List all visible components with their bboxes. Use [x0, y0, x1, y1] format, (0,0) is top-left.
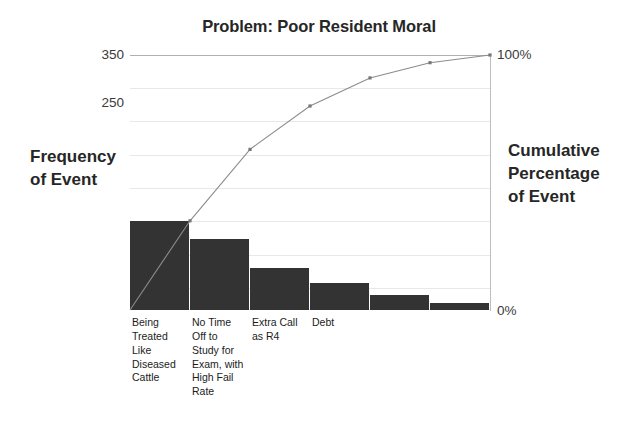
category-label-4: Debt — [312, 316, 370, 330]
category-label-line: Like — [132, 344, 190, 358]
category-label-line: Being — [132, 316, 190, 330]
cumulative-marker-2 — [248, 148, 251, 151]
category-label-line: as R4 — [252, 330, 310, 344]
category-label-line: Cattle — [132, 371, 190, 385]
category-label-line: Treated — [132, 330, 190, 344]
cumulative-markers — [188, 53, 491, 222]
cumulative-marker-4 — [368, 76, 371, 79]
cumulative-marker-3 — [308, 104, 311, 107]
right-axis-title: Cumulative Percentage of Event — [508, 140, 636, 209]
y-tick-label-350: 350 — [72, 47, 124, 62]
secondary-axis-line — [490, 55, 491, 311]
plot-area — [130, 55, 490, 310]
category-label-line: No Time — [192, 316, 250, 330]
category-label-line: Exam, with — [192, 358, 250, 372]
cumulative-marker-6 — [488, 53, 491, 56]
left-axis-title-line-1: Frequency — [30, 146, 138, 169]
category-label-line: Diseased — [132, 358, 190, 372]
category-label-2: No TimeOff toStudy forExam, withHigh Fai… — [192, 316, 250, 399]
category-label-line: Extra Call — [252, 316, 310, 330]
category-label-line: Off to — [192, 330, 250, 344]
cumulative-marker-1 — [188, 219, 191, 222]
cumulative-line — [130, 55, 490, 310]
left-axis-title-line-2: of Event — [30, 169, 138, 192]
y2-tick-label-0: 0% — [497, 303, 517, 318]
category-label-line: Debt — [312, 316, 370, 330]
category-label-line: High Fail — [192, 371, 250, 385]
y-tick-label-250: 250 — [72, 95, 124, 110]
chart-title: Problem: Poor Resident Moral — [0, 17, 638, 36]
left-axis-title: Frequency of Event — [30, 146, 138, 192]
category-label-3: Extra Callas R4 — [252, 316, 310, 344]
right-axis-title-line-3: of Event — [508, 186, 636, 209]
cumulative-marker-5 — [428, 61, 431, 64]
right-axis-title-line-1: Cumulative — [508, 140, 636, 163]
category-label-1: BeingTreatedLikeDiseasedCattle — [132, 316, 190, 385]
cumulative-line-layer — [130, 55, 490, 310]
category-label-line: Rate — [192, 385, 250, 399]
pareto-chart: Problem: Poor Resident Moral Frequency o… — [0, 0, 638, 421]
right-axis-title-line-2: Percentage — [508, 163, 636, 186]
category-label-line: Study for — [192, 344, 250, 358]
y2-tick-label-100: 100% — [497, 47, 532, 62]
